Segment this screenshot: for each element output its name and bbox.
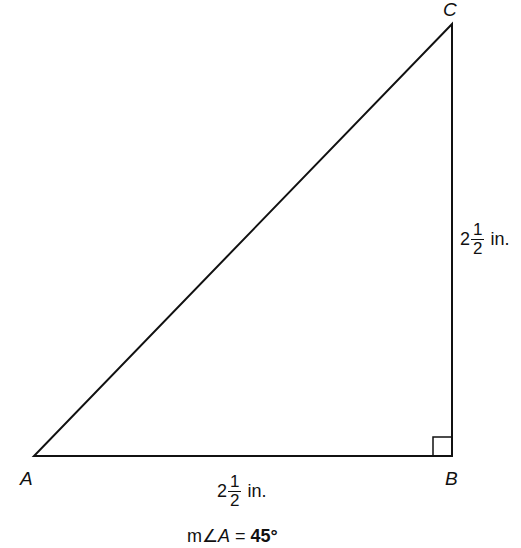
- numerator: 1: [228, 473, 241, 492]
- angle-vertex: A: [218, 526, 230, 546]
- side-bc-length: 2 1 2 in.: [460, 221, 510, 258]
- triangle-abc: [34, 24, 452, 456]
- unit: in.: [247, 482, 266, 500]
- side-ab-length: 2 1 2 in.: [217, 473, 267, 510]
- whole-number: 2: [217, 482, 227, 500]
- vertex-label-c: C: [443, 0, 457, 19]
- angle-prefix: m∠: [187, 526, 218, 546]
- fraction: 1 2: [228, 473, 241, 510]
- right-angle-marker: [433, 437, 452, 456]
- unit: in.: [490, 230, 509, 248]
- equals-sign: =: [230, 526, 251, 546]
- denominator: 2: [473, 240, 482, 258]
- angle-value: 45°: [251, 526, 278, 546]
- fraction: 1 2: [471, 221, 484, 258]
- vertex-label-b: B: [445, 469, 458, 488]
- denominator: 2: [230, 492, 239, 510]
- angle-a-measure: m∠A = 45°: [187, 527, 278, 545]
- whole-number: 2: [460, 230, 470, 248]
- vertex-label-a: A: [20, 469, 33, 488]
- triangle-figure: [0, 0, 521, 548]
- numerator: 1: [471, 221, 484, 240]
